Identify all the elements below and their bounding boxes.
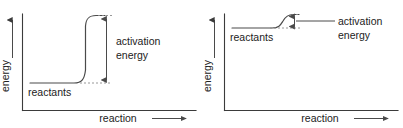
y-axis-label-left: energy (0, 59, 11, 92)
panel-catalyzed: energy reaction reactants activation ene… (201, 14, 398, 124)
y-axis-label-right: energy (201, 59, 213, 92)
reaction-curve-left (30, 16, 105, 84)
reactants-label-left: reactants (28, 86, 71, 98)
activation-label-right-line2: energy (338, 29, 371, 41)
energy-diagram-figure: energy reaction reactants activation ene… (0, 0, 403, 128)
x-axis-label-left: reaction (99, 112, 137, 124)
activation-label-left-line2: energy (116, 49, 149, 61)
reactants-label-right: reactants (230, 31, 273, 43)
reaction-curve-right (232, 15, 299, 29)
activation-label-right-line1: activation (338, 15, 383, 27)
activation-label-left-line1: activation (116, 35, 161, 47)
x-axis-label-right: reaction (301, 112, 339, 124)
panel-uncatalyzed: energy reaction reactants activation ene… (0, 14, 196, 124)
